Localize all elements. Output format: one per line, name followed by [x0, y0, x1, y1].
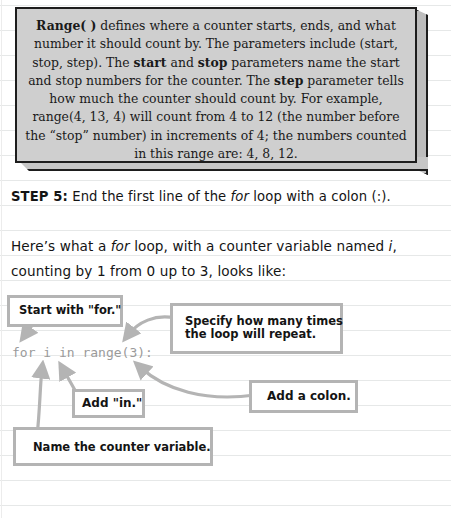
step-5-instruction: STEP 5: End the first line of the for lo…	[11, 189, 391, 204]
callout-label: Add a colon.	[267, 390, 355, 403]
stop-term: stop	[198, 55, 228, 70]
intro-line-1: Here’s what a for loop, with a counter v…	[11, 238, 397, 254]
callout-add-colon: Add a colon.	[249, 380, 358, 413]
step-label: STEP 5:	[11, 189, 68, 204]
callout-label: Start with "for."	[19, 304, 120, 317]
callout-specify-repeats: Specify how many times the loop will rep…	[170, 303, 343, 354]
step-text: End the first line of the	[68, 189, 231, 204]
arrow-colon	[140, 367, 255, 397]
callout-label: Add "in."	[82, 397, 142, 410]
page-margin-line	[1, 0, 2, 518]
callout-label: the loop will repeat.	[185, 328, 340, 341]
intro-text: Here’s what a	[11, 238, 111, 254]
step-text-end: loop with a colon (:).	[249, 189, 391, 204]
range-term: Range( )	[36, 18, 96, 33]
range-info-box: Range( ) defines where a counter starts,…	[15, 7, 419, 164]
intro-text: loop, with a counter variable named	[130, 238, 389, 254]
arrow-specify-to-range	[128, 317, 175, 335]
callout-add-in: Add "in."	[72, 389, 145, 418]
info-text-segment: and	[167, 55, 198, 70]
for-keyword: for	[231, 189, 249, 204]
intro-line-2: counting by 1 from 0 up to 3, looks like…	[11, 263, 286, 279]
start-term: start	[134, 55, 167, 70]
callout-label: Name the counter variable.	[33, 441, 210, 454]
arrow-name-variable	[37, 369, 42, 436]
range-description: Range( ) defines where a counter starts,…	[25, 17, 407, 163]
code-example: for i in range(3):	[12, 345, 153, 360]
for-keyword: for	[111, 238, 130, 254]
step-term: step	[274, 73, 303, 88]
intro-text: ,	[392, 238, 396, 254]
callout-name-variable: Name the counter variable.	[13, 427, 213, 466]
callout-start-with-for: Start with "for."	[7, 295, 123, 327]
